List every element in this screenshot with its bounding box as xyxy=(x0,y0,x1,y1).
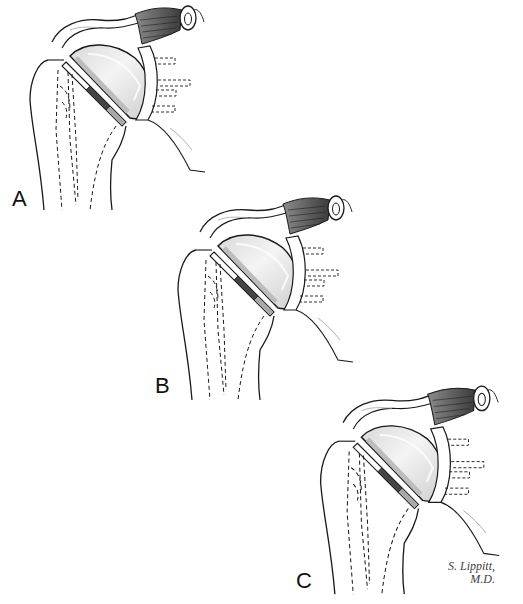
shoulder-arthroplasty-illustration xyxy=(0,0,523,604)
panel-b-shoulder xyxy=(178,196,353,400)
artist-signature: S. Lippitt, M.D. xyxy=(448,560,495,585)
panel-label-c: C xyxy=(296,570,312,592)
panel-label-a: A xyxy=(12,188,27,210)
panel-label-b: B xyxy=(155,375,170,397)
signature-credential: M.D. xyxy=(448,573,495,586)
panel-a-shoulder xyxy=(30,6,205,210)
signature-name: S. Lippitt, xyxy=(448,560,495,573)
